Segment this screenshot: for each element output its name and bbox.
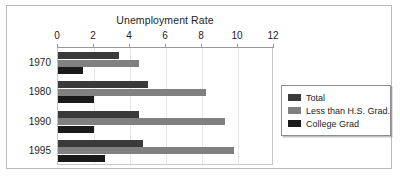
legend-item: College Grad: [288, 117, 385, 130]
plot-area: [57, 48, 273, 165]
bar-group: [58, 136, 272, 165]
legend-item: Less than H.S. Grad.: [288, 104, 385, 117]
bar: [58, 81, 148, 88]
x-tick-mark: [93, 44, 94, 48]
bar: [58, 111, 139, 118]
bar: [58, 155, 105, 162]
y-tick-label: 1970: [15, 57, 51, 68]
legend-swatch: [288, 107, 301, 114]
bar: [58, 89, 206, 96]
x-tick-mark: [201, 44, 202, 48]
bar: [58, 118, 225, 125]
x-tick-label: 8: [191, 30, 211, 41]
x-tick-mark: [273, 44, 274, 48]
legend-label: Total: [306, 93, 325, 103]
legend-label: Less than H.S. Grad.: [306, 106, 390, 116]
chart-legend: TotalLess than H.S. Grad.College Grad: [281, 85, 391, 136]
x-tick-label: 10: [227, 30, 247, 41]
bar: [58, 126, 94, 133]
x-tick-label: 6: [155, 30, 175, 41]
x-tick-mark: [57, 44, 58, 48]
x-tick-label: 0: [47, 30, 67, 41]
legend-item: Total: [288, 91, 385, 104]
chart-frame: Unemployment Rate 024681012 197019801990…: [6, 5, 392, 169]
bar: [58, 96, 94, 103]
y-tick-label: 1990: [15, 116, 51, 127]
x-tick-mark: [165, 44, 166, 48]
x-tick-mark: [237, 44, 238, 48]
x-tick-label: 2: [83, 30, 103, 41]
legend-swatch: [288, 94, 301, 101]
bar-group: [58, 77, 272, 106]
bar-group: [58, 107, 272, 136]
bar-group: [58, 48, 272, 77]
bar: [58, 60, 139, 67]
bar: [58, 140, 143, 147]
bar: [58, 147, 234, 154]
y-axis: 1970198019901995: [15, 48, 55, 165]
bar: [58, 52, 119, 59]
chart-title: Unemployment Rate: [57, 14, 273, 26]
x-tick-mark: [129, 44, 130, 48]
legend-swatch: [288, 120, 301, 127]
x-tick-label: 12: [263, 30, 283, 41]
legend-label: College Grad: [306, 119, 359, 129]
bar: [58, 67, 83, 74]
x-tick-label: 4: [119, 30, 139, 41]
y-tick-label: 1980: [15, 86, 51, 97]
y-tick-label: 1995: [15, 145, 51, 156]
